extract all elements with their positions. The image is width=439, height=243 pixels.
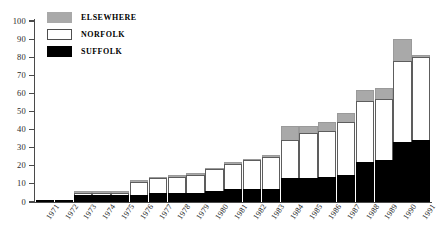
bar-1974[interactable] [92, 191, 110, 202]
bar-segment-norfolk [224, 164, 242, 189]
bar-1971[interactable] [36, 200, 54, 202]
legend-item-norfolk[interactable]: NORFOLK [47, 28, 197, 41]
bar-1979[interactable] [186, 173, 204, 202]
bar-segment-suffolk [205, 191, 223, 202]
y-axis-tick [29, 75, 34, 76]
y-axis-tick-label: 90 [17, 35, 26, 44]
y-axis-tick-label: 50 [17, 107, 26, 116]
bar-segment-norfolk [186, 175, 204, 193]
bar-1978[interactable] [168, 175, 186, 202]
y-axis-tick-label: 60 [17, 89, 26, 98]
bar-segment-norfolk [149, 178, 167, 192]
bar-segment-suffolk [356, 162, 374, 202]
chart-root: 0102030405060708090100 19711972197319741… [0, 0, 439, 243]
bar-1986[interactable] [318, 122, 336, 202]
bar-segment-norfolk [205, 169, 223, 191]
bar-segment-norfolk [281, 140, 299, 178]
bar-segment-elsewhere [318, 122, 336, 131]
y-axis-tick-label: 80 [17, 53, 26, 62]
x-axis-label-1982: 1982 [252, 203, 268, 221]
x-axis-label-1978: 1978 [177, 203, 193, 221]
legend-item-elsewhere[interactable]: ELSEWHERE [47, 11, 197, 24]
x-axis-label-1983: 1983 [271, 203, 287, 221]
x-axis-label-1980: 1980 [214, 203, 230, 221]
bar-segment-suffolk [299, 178, 317, 202]
bar-segment-norfolk [318, 131, 336, 176]
x-axis-label-1987: 1987 [346, 203, 362, 221]
bar-segment-suffolk [111, 195, 129, 202]
x-axis-labels: 1971197219731974197519761977197819791980… [36, 205, 431, 243]
bar-segment-suffolk [224, 189, 242, 202]
y-axis-tick-label: 70 [17, 71, 26, 80]
x-axis-label-1971: 1971 [45, 203, 61, 221]
bar-segment-norfolk [356, 101, 374, 163]
legend-label: ELSEWHERE [81, 13, 137, 22]
y-axis-tick-label: 100 [13, 17, 26, 26]
bar-segment-elsewhere [356, 90, 374, 101]
y-axis-tick [29, 20, 34, 21]
y-axis-tick-label: 30 [17, 143, 26, 152]
bar-1972[interactable] [55, 200, 73, 202]
bar-1991[interactable] [412, 55, 430, 202]
bar-segment-elsewhere [281, 126, 299, 140]
legend-item-suffolk[interactable]: SUFFOLK [47, 45, 197, 58]
x-axis-label-1984: 1984 [289, 203, 305, 221]
bar-segment-norfolk [262, 157, 280, 190]
legend-label: NORFOLK [81, 30, 125, 39]
bar-1984[interactable] [281, 126, 299, 202]
bar-segment-suffolk [337, 175, 355, 202]
legend-label: SUFFOLK [81, 47, 122, 56]
bar-1975[interactable] [111, 191, 129, 202]
bar-1977[interactable] [149, 177, 167, 202]
bar-segment-suffolk [92, 195, 110, 202]
bar-segment-suffolk [149, 193, 167, 202]
y-axis-tick-label: 10 [17, 179, 26, 188]
bar-segment-suffolk [168, 193, 186, 202]
bar-1980[interactable] [205, 168, 223, 202]
bar-1987[interactable] [337, 113, 355, 202]
x-axis-label-1975: 1975 [120, 203, 136, 221]
bar-segment-suffolk [36, 200, 54, 202]
bar-segment-suffolk [74, 195, 92, 202]
bar-segment-suffolk [55, 200, 73, 202]
bar-segment-elsewhere [299, 126, 317, 133]
bar-1988[interactable] [356, 90, 374, 202]
bar-1983[interactable] [262, 155, 280, 202]
x-axis-label-1991: 1991 [421, 203, 437, 221]
x-axis-label-1977: 1977 [158, 203, 174, 221]
bar-1982[interactable] [243, 159, 261, 202]
y-axis-tick [29, 111, 34, 112]
bar-1990[interactable] [393, 39, 411, 202]
bar-segment-suffolk [393, 142, 411, 202]
bar-1981[interactable] [224, 162, 242, 202]
legend-swatch-suffolk [47, 46, 72, 57]
y-axis: 0102030405060708090100 [0, 0, 34, 243]
bar-1985[interactable] [299, 126, 317, 202]
bar-segment-suffolk [281, 178, 299, 202]
bar-segment-norfolk [375, 99, 393, 161]
bar-segment-suffolk [318, 177, 336, 202]
bar-segment-norfolk [337, 122, 355, 174]
y-axis-tick-label: 0 [22, 198, 26, 207]
bar-1973[interactable] [74, 191, 92, 202]
x-axis-label-1976: 1976 [139, 203, 155, 221]
bar-segment-norfolk [168, 177, 186, 193]
chart-legend: ELSEWHERENORFOLKSUFFOLK [47, 11, 197, 62]
x-axis-label-1974: 1974 [101, 203, 117, 221]
bar-1976[interactable] [130, 180, 148, 202]
y-axis-tick-label: 20 [17, 161, 26, 170]
bar-segment-suffolk [412, 140, 430, 202]
legend-swatch-norfolk [47, 29, 72, 40]
bar-segment-norfolk [299, 133, 317, 178]
bar-segment-elsewhere [337, 113, 355, 122]
x-axis-label-1985: 1985 [308, 203, 324, 221]
x-axis-label-1979: 1979 [195, 203, 211, 221]
bar-segment-norfolk [243, 160, 261, 189]
y-axis-tick [29, 57, 34, 58]
bar-1989[interactable] [375, 88, 393, 202]
y-axis-tick [29, 147, 34, 148]
bar-segment-suffolk [186, 193, 204, 202]
x-axis-label-1973: 1973 [83, 203, 99, 221]
bar-segment-elsewhere [393, 39, 411, 61]
y-axis-tick [29, 39, 34, 40]
